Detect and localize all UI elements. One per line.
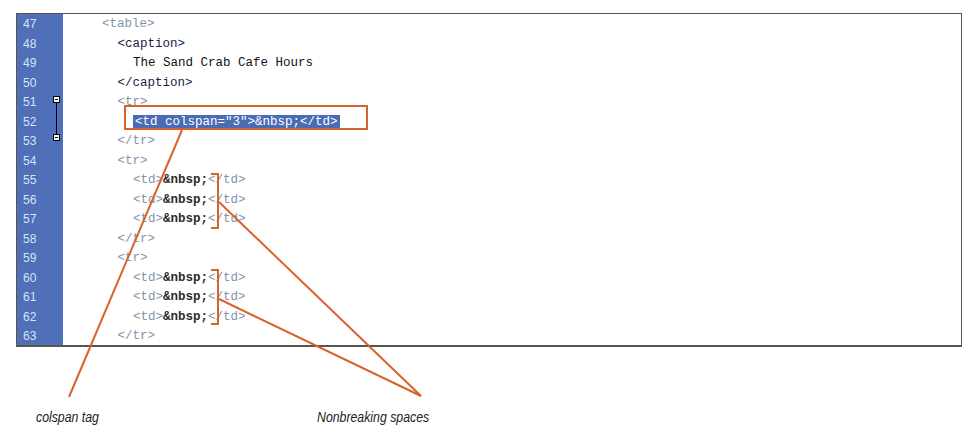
colspan-tag-label: colspan tag	[36, 408, 99, 425]
leader-lines	[0, 0, 968, 439]
nonbreaking-spaces-label: Nonbreaking spaces	[317, 408, 429, 425]
